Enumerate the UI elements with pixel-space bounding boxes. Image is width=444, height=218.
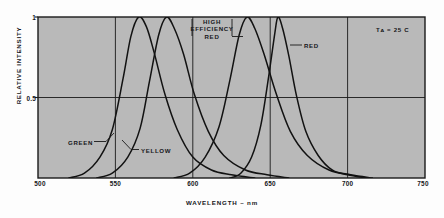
curve-label-high-efficiency-red-line-1: HIGH — [203, 18, 221, 25]
x-tick-label-550: 550 — [110, 180, 121, 187]
curve-label-high-efficiency-red-line-3: RED — [205, 33, 220, 40]
x-axis-label: WAVELENGTH – nm — [0, 199, 444, 206]
x-tick-label-650: 650 — [265, 180, 276, 187]
y-tick-label-1: 1 — [32, 14, 36, 21]
x-tick-label-600: 600 — [187, 180, 198, 187]
led-spectral-distribution-chart: RELATIVE INTENSITY WAVELENGTH – nm 1 0.5… — [0, 0, 444, 218]
y-axis-label: RELATIVE INTENSITY — [15, 1, 22, 131]
y-tick-label-0-5: 0.5 — [27, 94, 36, 101]
curve-label-red: RED — [304, 42, 319, 49]
ambient-temperature-annotation: Tᴀ = 25 C — [376, 26, 409, 33]
x-tick-label-500: 500 — [34, 180, 45, 187]
x-tick-label-750: 750 — [417, 180, 428, 187]
curve-label-green: GREEN — [68, 139, 93, 146]
curve-label-yellow: YELLOW — [141, 147, 171, 154]
curve-label-high-efficiency-red-line-2: EFFICIENCY — [190, 25, 233, 32]
x-tick-label-700: 700 — [342, 180, 353, 187]
